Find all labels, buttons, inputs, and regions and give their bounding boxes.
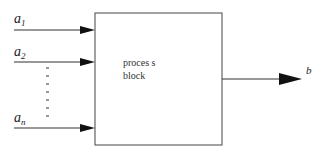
diagram-canvas — [0, 0, 328, 154]
input-arrow-an-icon — [80, 124, 95, 132]
input-label-a1: a1 — [14, 11, 26, 28]
process-block-label-line2: block — [123, 69, 156, 82]
output-arrow-icon — [279, 73, 302, 85]
process-block-label-line1: proces s — [123, 56, 156, 69]
input-label-an: an — [14, 110, 26, 127]
process-block-label: proces s block — [123, 56, 156, 82]
input-label-a2: a2 — [14, 44, 26, 61]
vertical-ellipsis-icon — [46, 68, 49, 116]
output-label-b: b — [306, 64, 312, 76]
input-arrow-a1-icon — [80, 26, 95, 34]
input-arrow-a2-icon — [80, 58, 95, 66]
process-block-box — [95, 13, 222, 145]
